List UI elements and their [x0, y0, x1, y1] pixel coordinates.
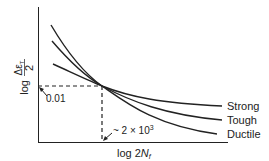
legend-tough: Tough: [227, 114, 257, 126]
svg-text:log: log: [18, 80, 30, 95]
curve-strong: [53, 64, 222, 106]
curve-ductile: [51, 25, 217, 134]
legend-ductile: Ductile: [227, 128, 261, 140]
y-axis-label: log ΔεT 2: [13, 59, 35, 95]
cycles-annotation: ~ 2 × 103: [113, 124, 154, 136]
strain-life-chart: log ΔεT 2 0.01 ~ 2 × 103 log 2Nf Strong …: [0, 0, 269, 161]
legend-strong: Strong: [227, 100, 259, 112]
svg-text:2: 2: [23, 65, 35, 71]
strain-annotation: 0.01: [46, 93, 66, 104]
x-axis-label: log 2Nf: [117, 147, 152, 160]
